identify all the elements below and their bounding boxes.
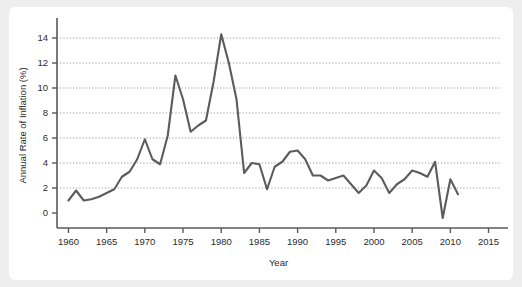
x-axis-tick-label: 2015	[478, 236, 499, 247]
y-axis-tick-label: 4	[43, 157, 48, 168]
x-axis-tick-label: 1970	[134, 236, 155, 247]
chart-card: 02468101214 1960196519701975198019851990…	[9, 7, 513, 280]
y-axis-tick-label: 8	[43, 107, 48, 118]
y-axis-tick-label: 2	[43, 182, 48, 193]
chart-svg: 02468101214 1960196519701975198019851990…	[9, 7, 513, 280]
x-axis-tick-label: 1980	[211, 236, 232, 247]
y-axis-tick-label: 12	[37, 57, 48, 68]
y-axis-tick-label: 0	[43, 207, 48, 218]
y-axis-title: Annual Rate of Inflation (%)	[17, 67, 28, 183]
inflation-series-line	[68, 34, 458, 218]
x-axis-tick-label: 2010	[440, 236, 461, 247]
x-axis-tick-label: 1965	[96, 236, 117, 247]
x-axis-title: Year	[269, 257, 288, 268]
line-chart: 02468101214 1960196519701975198019851990…	[9, 7, 513, 280]
x-axis-tick-label: 1995	[325, 236, 346, 247]
x-axis-tick-label: 1985	[249, 236, 270, 247]
y-axis-tick-label: 6	[43, 132, 48, 143]
x-axis-tick-label: 2000	[363, 236, 384, 247]
x-axis-tick-label: 1960	[58, 236, 79, 247]
x-axis-tick-label: 1975	[172, 236, 193, 247]
y-axis-ticks-group: 02468101214	[37, 32, 57, 218]
y-axis-tick-label: 14	[37, 32, 48, 43]
x-axis-ticks-group: 1960196519701975198019851990199520002005…	[58, 228, 499, 247]
x-axis-tick-label: 2005	[402, 236, 423, 247]
y-axis-tick-label: 10	[37, 82, 48, 93]
x-axis-tick-label: 1990	[287, 236, 308, 247]
